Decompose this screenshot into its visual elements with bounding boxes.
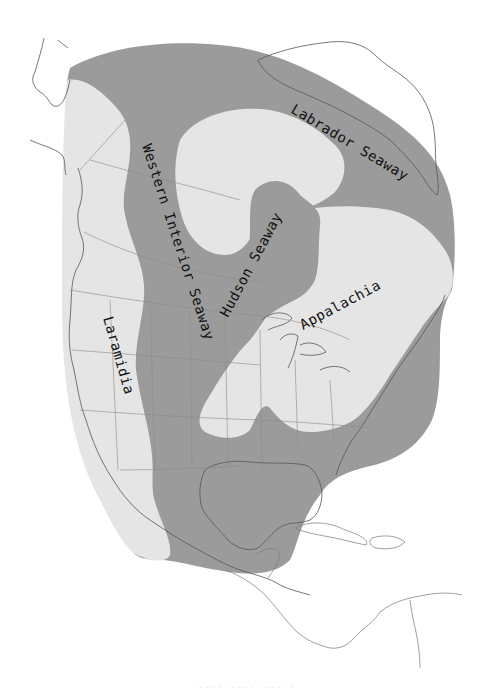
- south-america-coastline: [380, 593, 462, 668]
- cuba-coastline: [295, 523, 367, 545]
- paleogeographic-map: Western Interior Seaway Labrador Seaway …: [0, 0, 487, 699]
- map-caption: · · · · · · · · · · · · · · · ·: [0, 684, 487, 692]
- aleutian-coastline: [58, 40, 68, 48]
- hispaniola-coastline: [370, 536, 405, 549]
- central-america-coastline: [225, 570, 380, 648]
